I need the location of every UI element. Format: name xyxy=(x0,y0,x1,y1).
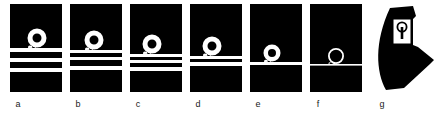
panel-label-b: b xyxy=(68,98,88,110)
stripe-1 xyxy=(190,56,242,59)
stripe-3 xyxy=(70,66,122,70)
stripe-1 xyxy=(310,64,362,66)
keyhole-stem xyxy=(401,27,404,39)
stripe-2 xyxy=(190,62,242,66)
panel-label-g: g xyxy=(372,98,392,110)
panel-c-graphic xyxy=(130,4,182,92)
panel-b xyxy=(70,4,122,92)
panel-label-e: e xyxy=(248,98,268,110)
stripe-1 xyxy=(70,50,122,53)
figure-container: abcdefg xyxy=(0,0,439,116)
panel-background xyxy=(190,4,242,92)
panel-background xyxy=(310,4,362,92)
panel-d-graphic xyxy=(190,4,242,92)
stripe-1 xyxy=(250,62,302,65)
panel-label-f: f xyxy=(308,98,328,110)
stripe-3 xyxy=(10,68,62,72)
panel-a xyxy=(10,4,62,92)
panel-label-c: c xyxy=(128,98,148,110)
panel-label-a: a xyxy=(8,98,28,110)
stripe-3 xyxy=(130,67,182,71)
stripe-2 xyxy=(10,58,62,62)
stripe-2 xyxy=(130,60,182,63)
panel-a-graphic xyxy=(10,4,62,92)
panel-d xyxy=(190,4,242,92)
panel-g xyxy=(366,2,438,96)
panel-f xyxy=(310,4,362,92)
final-shape-graphic xyxy=(366,2,438,96)
panel-e xyxy=(250,4,302,92)
panel-f-graphic xyxy=(310,4,362,92)
stripe-1 xyxy=(10,48,62,52)
panel-e-graphic xyxy=(250,4,302,92)
stripe-1 xyxy=(130,54,182,57)
stripe-2 xyxy=(70,57,122,60)
panel-b-graphic xyxy=(70,4,122,92)
panel-c xyxy=(130,4,182,92)
panel-label-d: d xyxy=(188,98,208,110)
